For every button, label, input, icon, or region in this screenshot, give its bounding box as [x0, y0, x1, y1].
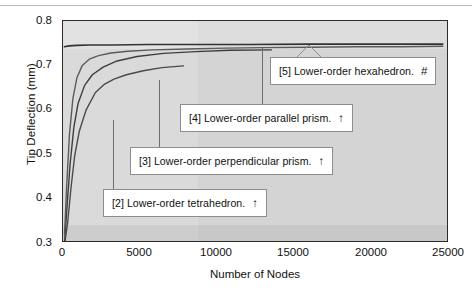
callout-2-marker: ↑	[252, 197, 258, 209]
y-tick-label: 0.5	[10, 147, 52, 159]
y-tick-label: 0.8	[10, 14, 52, 26]
callout-5-tail	[296, 45, 322, 59]
callout-2-label: [2] Lower-order tetrahedron.	[112, 197, 245, 209]
callout-2[interactable]: [2] Lower-order tetrahedron. ↑	[103, 189, 267, 217]
leader-line-4	[262, 48, 263, 105]
x-tick-label: 20000	[336, 246, 406, 258]
callout-5-label: [5] Lower-order hexahedron.	[279, 65, 414, 77]
x-tick-label: 15000	[258, 246, 328, 258]
y-tick-label: 0.4	[10, 191, 52, 203]
callout-5-marker: #	[421, 65, 427, 77]
y-tick-label: 0.6	[10, 102, 52, 114]
leader-line-2	[113, 120, 114, 190]
callout-4-label: [4] Lower-order parallel prism.	[189, 112, 331, 124]
callout-5[interactable]: [5] Lower-order hexahedron. #	[270, 57, 436, 85]
y-tick-label: 0.7	[10, 58, 52, 70]
x-tick-label: 5000	[104, 246, 174, 258]
callout-3-label: [3] Lower-order perpendicular prism.	[139, 155, 312, 167]
x-axis-label: Number of Nodes	[62, 268, 448, 280]
callout-4-marker: ↑	[338, 112, 344, 124]
leader-line-3	[159, 80, 160, 148]
x-tick-label: 0	[27, 246, 97, 258]
callout-3-marker: ↑	[319, 155, 325, 167]
scan-edge-line	[0, 5, 472, 6]
callout-4[interactable]: [4] Lower-order parallel prism. ↑	[180, 104, 353, 132]
callout-3[interactable]: [3] Lower-order perpendicular prism. ↑	[130, 147, 333, 175]
x-tick-label: 25000	[413, 246, 472, 258]
chart-figure: Tip Deflection (mm) 0.8 0.7 0.6 0.5 0.4 …	[0, 0, 472, 292]
x-tick-label: 10000	[181, 246, 251, 258]
